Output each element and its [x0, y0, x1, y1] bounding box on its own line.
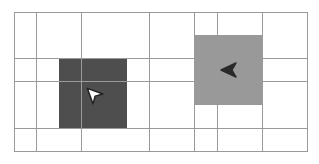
grid-cell	[127, 59, 150, 83]
grid-cell	[14, 12, 37, 36]
dark-square-cell	[59, 59, 82, 83]
grid-cell	[127, 82, 150, 106]
light-square-cell	[195, 59, 218, 83]
grid-cell	[218, 105, 241, 129]
grid-cell	[127, 129, 150, 153]
dark-square-cell	[59, 82, 82, 106]
grid-cell	[240, 105, 263, 129]
grid-cell	[14, 129, 37, 153]
grid-cell	[150, 129, 173, 153]
light-square-cell	[218, 82, 241, 106]
grid-cell	[285, 82, 308, 106]
grid-cell	[37, 35, 60, 59]
grid-cell	[263, 35, 286, 59]
grid-board	[14, 12, 308, 152]
grid-cell	[37, 12, 60, 36]
grid-cell	[285, 35, 308, 59]
grid-cell	[104, 35, 127, 59]
grid-cell	[240, 129, 263, 153]
grid-cell	[82, 129, 105, 153]
dark-arrow-agent	[218, 59, 240, 81]
grid-cell	[150, 105, 173, 129]
grid-cell	[150, 35, 173, 59]
grid-cell	[82, 12, 105, 36]
grid-cell	[14, 82, 37, 106]
grid-cell	[285, 12, 308, 36]
grid-cell	[127, 105, 150, 129]
grid-cell	[104, 12, 127, 36]
grid-cell	[218, 129, 241, 153]
light-square-cell	[218, 35, 241, 59]
arrow-icon	[218, 59, 240, 81]
white-arrow-agent	[82, 83, 104, 105]
dark-square-cell	[82, 105, 105, 129]
grid-cell	[104, 129, 127, 153]
dark-square-cell	[104, 59, 127, 83]
grid-cell	[37, 105, 60, 129]
grid-cell	[172, 105, 195, 129]
grid-cell	[263, 12, 286, 36]
dark-square-cell	[104, 105, 127, 129]
grid-cell	[172, 129, 195, 153]
dark-square-cell	[104, 82, 127, 106]
arrow-icon	[82, 83, 104, 105]
grid-cell	[263, 105, 286, 129]
grid-cell	[127, 35, 150, 59]
grid-cell	[172, 35, 195, 59]
grid-cell	[37, 59, 60, 83]
grid-cell	[263, 129, 286, 153]
grid-cell	[59, 35, 82, 59]
grid-cell	[285, 129, 308, 153]
grid-cell	[263, 82, 286, 106]
grid-cell	[172, 12, 195, 36]
grid-cell	[172, 82, 195, 106]
grid-cell	[59, 129, 82, 153]
grid-cell	[150, 59, 173, 83]
grid-cell	[37, 82, 60, 106]
grid-cell	[150, 12, 173, 36]
grid-cell	[195, 12, 218, 36]
grid-cell	[37, 129, 60, 153]
grid-cell	[172, 59, 195, 83]
grid-cell	[150, 82, 173, 106]
grid-cell	[82, 35, 105, 59]
grid-cell	[218, 12, 241, 36]
grid-cell	[285, 105, 308, 129]
grid-cell	[14, 59, 37, 83]
light-square-cell	[240, 59, 263, 83]
grid-cell	[59, 12, 82, 36]
grid-cell	[195, 129, 218, 153]
grid-cell	[263, 59, 286, 83]
grid-cell	[127, 12, 150, 36]
dark-square-cell	[82, 59, 105, 83]
grid-cell	[195, 105, 218, 129]
grid-cell	[285, 59, 308, 83]
grid-cell	[240, 12, 263, 36]
light-square-cell	[240, 82, 263, 106]
light-square-cell	[240, 35, 263, 59]
grid-cell	[14, 105, 37, 129]
light-square-cell	[195, 35, 218, 59]
light-square-cell	[195, 82, 218, 106]
grid-cell	[14, 35, 37, 59]
dark-square-cell	[59, 105, 82, 129]
